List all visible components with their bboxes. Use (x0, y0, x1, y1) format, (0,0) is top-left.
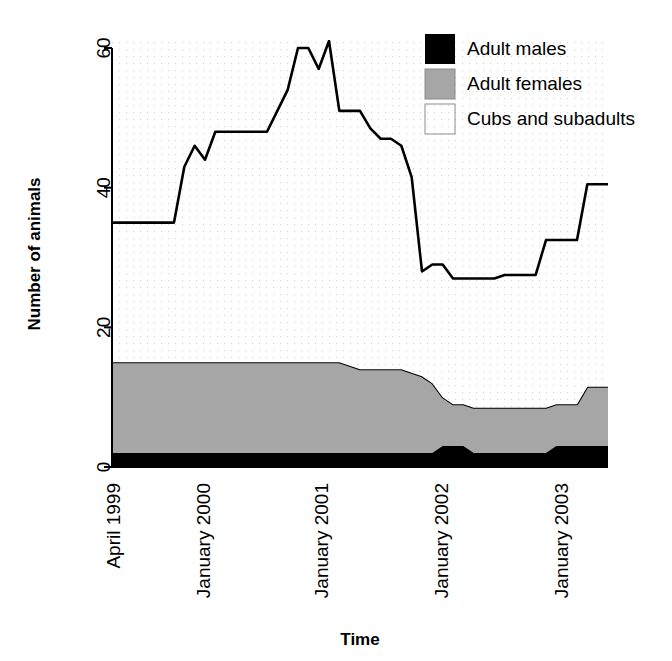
y-axis-ticks (104, 48, 112, 467)
legend-swatch (425, 69, 455, 99)
x-axis-tick-labels: April 1999January 2000January 2001Januar… (103, 483, 572, 598)
legend-label: Adult males (467, 38, 566, 59)
legend-label: Cubs and subadults (467, 108, 635, 129)
y-tick-label: 60 (93, 37, 114, 58)
x-axis-title: Time (340, 630, 379, 649)
x-tick-label: April 1999 (103, 483, 124, 569)
legend-swatch (425, 34, 455, 64)
chart-container: 0204060 April 1999January 2000January 20… (0, 0, 672, 661)
animal-population-stacked-area-chart: 0204060 April 1999January 2000January 20… (0, 0, 672, 661)
x-tick-label: January 2000 (193, 483, 214, 598)
y-tick-label: 20 (93, 317, 114, 338)
x-tick-label: January 2002 (431, 483, 452, 598)
y-axis-tick-labels: 0204060 (93, 37, 114, 472)
y-axis-title: Number of animals (25, 177, 44, 330)
legend-swatch (425, 104, 455, 134)
y-tick-label: 0 (93, 462, 114, 473)
legend-label: Adult females (467, 73, 582, 94)
x-tick-label: January 2001 (311, 483, 332, 598)
y-tick-label: 40 (93, 177, 114, 198)
x-tick-label: January 2003 (551, 483, 572, 598)
